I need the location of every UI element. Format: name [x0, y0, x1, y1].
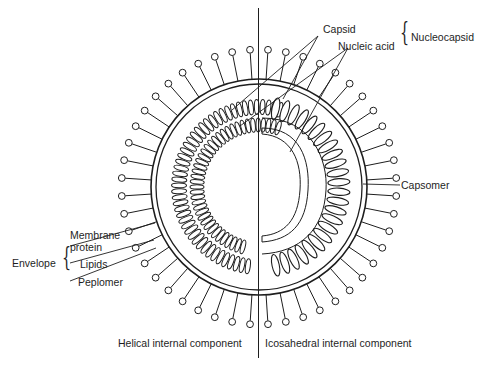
label-membrane-protein-1: Membrane	[70, 229, 120, 241]
envelope-brace: {	[62, 244, 71, 270]
label-nucleic-acid: Nucleic acid	[338, 40, 395, 52]
label-nucleocapsid: Nucleocapsid	[411, 31, 474, 43]
label-capsomer: Capsomer	[401, 179, 449, 191]
label-envelope: Envelope	[12, 257, 56, 269]
label-icosahedral: Icosahedral internal component	[265, 337, 412, 349]
nucleic-acid-core	[262, 128, 308, 242]
helical-capsid-outer	[171, 99, 283, 274]
icosahedral-capsomers	[270, 97, 350, 277]
label-peplomer: Peplomer	[78, 276, 123, 288]
label-membrane-protein-2: protein	[70, 241, 102, 253]
label-lipids: Lipids	[80, 258, 107, 270]
label-capsid: Capsid	[323, 23, 356, 35]
nucleocapsid-brace: {	[400, 19, 409, 45]
label-helical: Helical internal component	[118, 337, 242, 349]
